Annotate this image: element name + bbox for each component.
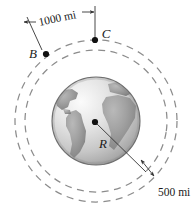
altitude-distance-label: 500 mi <box>158 186 190 198</box>
earth-center-marker <box>92 119 98 125</box>
altitude-dimension-group <box>141 160 154 176</box>
radius-label: R <box>98 136 107 151</box>
point-b-label: B <box>29 46 37 61</box>
point-b-marker <box>43 51 49 57</box>
orbit-diagram-figure: B C R 1000 mi 500 mi <box>0 0 192 218</box>
orbit-points-group <box>43 37 98 57</box>
arc-distance-label: 1000 mi <box>37 8 77 28</box>
orbit-diagram-canvas: B C R 1000 mi 500 mi <box>0 0 192 218</box>
point-c-label: C <box>102 26 111 41</box>
altitude-gap-arrow <box>141 160 154 176</box>
point-c-marker <box>92 37 98 43</box>
